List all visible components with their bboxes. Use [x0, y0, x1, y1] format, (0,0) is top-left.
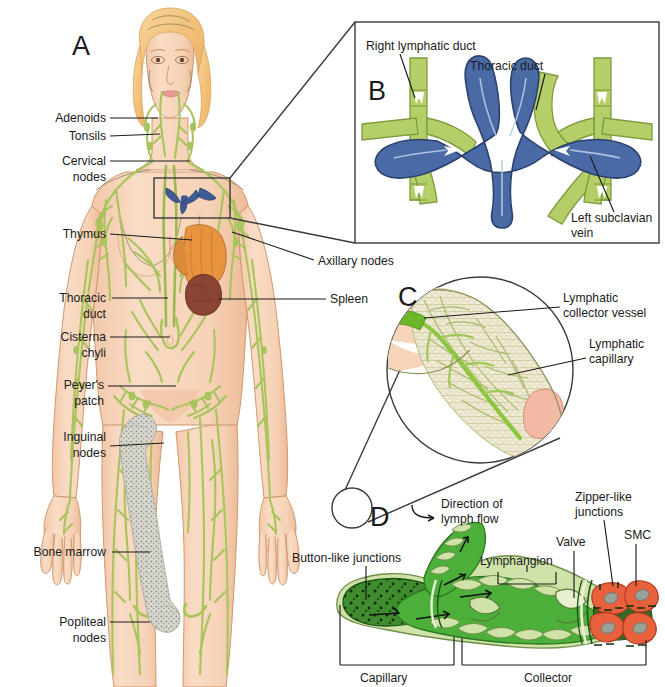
label-thoracic-duct-line2: duct — [83, 307, 107, 321]
lymphatic-system-figure: A Adenoids Tonsils Cervical nodes Thymus… — [0, 0, 665, 687]
label-thymus: Thymus — [63, 227, 106, 241]
label-smc: SMC — [624, 528, 651, 542]
label-collector: Collector — [524, 671, 572, 685]
label-cisterna-chyli-line1: Cisterna — [61, 330, 107, 344]
label-inguinal-nodes-line1: Inguinal — [63, 430, 106, 444]
label-thoracic-duct-b: Thoracic duct — [470, 59, 544, 73]
label-zipper-like-junctions-line2: junctions — [574, 505, 623, 519]
label-popliteal-nodes-line1: Popliteal — [59, 615, 106, 629]
label-popliteal-nodes-line2: nodes — [73, 631, 106, 645]
panel-d-letter: D — [370, 502, 390, 532]
label-peyers-patch-line2: patch — [74, 394, 104, 408]
label-lymphatic-collector-vessel-line2: collector vessel — [563, 306, 646, 320]
label-left-subclavian-vein-line2: vein — [571, 226, 593, 240]
label-cervical-nodes-line2: nodes — [73, 170, 106, 184]
label-thoracic-duct-line1: Thoracic — [59, 291, 106, 305]
label-direction-of-lymph-flow-line2: lymph flow — [441, 512, 499, 526]
smc-cells — [590, 581, 658, 646]
label-spleen: Spleen — [330, 292, 368, 306]
spleen-organ — [185, 274, 221, 315]
label-button-like-junctions: Button-like junctions — [292, 551, 401, 565]
label-capillary: Capillary — [360, 671, 408, 685]
label-lymphangion: Lymphangion — [480, 554, 553, 568]
label-inguinal-nodes-line2: nodes — [73, 446, 106, 460]
label-cervical-nodes-line1: Cervical — [62, 154, 106, 168]
label-right-lymphatic-duct: Right lymphatic duct — [366, 39, 476, 53]
label-lymphatic-capillary-line2: capillary — [589, 352, 635, 366]
label-lymphatic-capillary-line1: Lymphatic — [589, 337, 644, 351]
label-cisterna-chyli-line2: chyli — [82, 346, 106, 360]
panel-a-letter: A — [72, 31, 90, 61]
label-left-subclavian-vein-line1: Left subclavian — [571, 211, 652, 225]
label-peyers-patch-line1: Peyer's — [64, 378, 104, 392]
label-tonsils: Tonsils — [69, 129, 106, 143]
label-axillary-nodes: Axillary nodes — [318, 254, 394, 268]
panel-c-letter: C — [398, 282, 418, 312]
label-adenoids: Adenoids — [55, 111, 106, 125]
label-direction-of-lymph-flow-line1: Direction of — [441, 497, 503, 511]
label-lymphatic-collector-vessel-line1: Lymphatic — [563, 291, 618, 305]
panel-b-letter: B — [368, 76, 386, 106]
label-zipper-like-junctions-line1: Zipper-like — [575, 490, 632, 504]
label-bone-marrow: Bone marrow — [34, 545, 107, 559]
figure-canvas: A Adenoids Tonsils Cervical nodes Thymus… — [0, 0, 665, 687]
label-valve: Valve — [556, 535, 586, 549]
